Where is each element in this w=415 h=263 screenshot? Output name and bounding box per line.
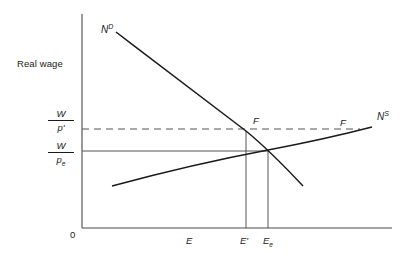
y-tick-equilibrium-wage-denominator: pe [48, 153, 74, 165]
labor-supply-curve-label: NS [377, 112, 389, 122]
y-tick-equilibrium-wage-numerator: W [48, 140, 74, 153]
labor-demand-curve-label: ND [101, 25, 113, 35]
prime-mark: ' [63, 122, 65, 133]
y-tick-high-wage: W p' [48, 108, 74, 133]
x-tick-employment-demanded: E [186, 236, 192, 246]
labor-demand-curve [116, 32, 303, 186]
x-tick-employment-constrained: E' [240, 236, 248, 246]
subscript-e: e [269, 241, 273, 248]
y-tick-high-wage-denominator: p' [48, 121, 74, 133]
origin-label: 0 [70, 230, 75, 240]
point-f-supply-label: F [340, 118, 346, 128]
x-tick-employment-equilibrium: Ee [263, 236, 273, 246]
prime-mark: ' [246, 235, 248, 246]
y-axis-title: Real wage [17, 59, 63, 69]
point-f-demand-label: F [253, 116, 259, 126]
subscript-e: e [62, 159, 66, 166]
labor-market-diagram: Real wage 0 W p' W pe ND NS F F E E' Ee [0, 0, 415, 263]
labor-supply-curve [112, 127, 372, 186]
y-tick-high-wage-numerator: W [48, 108, 74, 121]
y-tick-equilibrium-wage: W pe [48, 140, 74, 165]
